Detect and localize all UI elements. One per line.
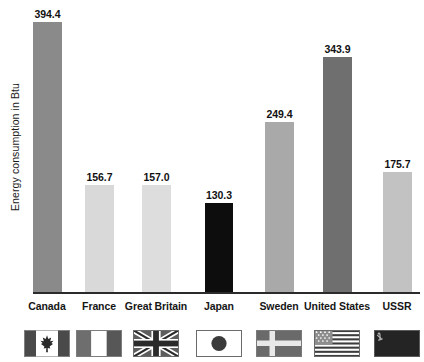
flag-great-britain-icon <box>133 330 179 357</box>
bar-column[interactable]: 130.3 <box>205 0 233 293</box>
flag-canada-icon <box>24 330 70 357</box>
bar-value-label: 343.9 <box>325 43 351 55</box>
bar[interactable] <box>142 185 171 293</box>
bar[interactable] <box>265 122 294 293</box>
y-axis-title: Energy consumption in Btu <box>0 0 30 293</box>
bar-value-label: 156.7 <box>87 171 113 183</box>
flag-sweden-icon <box>256 330 302 357</box>
bar[interactable] <box>205 203 233 293</box>
category-label-row: CanadaFranceGreat BritainJapanSwedenUnit… <box>0 300 424 322</box>
x-axis-baseline <box>33 292 420 294</box>
y-axis-title-text: Energy consumption in Btu <box>9 83 21 211</box>
bar[interactable] <box>323 57 352 293</box>
bar[interactable] <box>383 172 412 293</box>
category-label-ussr: USSR <box>337 300 424 312</box>
bar-value-label: 130.3 <box>206 189 232 201</box>
plot-area: 394.4156.7157.0130.3249.4343.9175.7 <box>33 0 420 293</box>
bar-value-label: 394.4 <box>35 8 61 20</box>
bar-column[interactable]: 175.7 <box>383 0 412 293</box>
bar-chart: Energy consumption in Btu 394.4156.7157.… <box>0 0 424 362</box>
bar-column[interactable]: 156.7 <box>85 0 114 293</box>
bar-column[interactable]: 343.9 <box>323 0 352 293</box>
bar-column[interactable]: 394.4 <box>33 0 62 293</box>
flag-france-icon <box>76 330 122 357</box>
bar[interactable] <box>85 185 114 293</box>
bar-value-label: 175.7 <box>385 158 411 170</box>
flag-united-states-icon <box>314 330 360 357</box>
bar-value-label: 249.4 <box>267 108 293 120</box>
bar-value-label: 157.0 <box>144 171 170 183</box>
bar-column[interactable]: 157.0 <box>142 0 171 293</box>
bar-column[interactable]: 249.4 <box>265 0 294 293</box>
flag-row <box>0 330 424 358</box>
flag-japan-icon <box>196 330 242 357</box>
bar[interactable] <box>33 22 62 293</box>
flag-ussr-icon <box>374 330 420 357</box>
